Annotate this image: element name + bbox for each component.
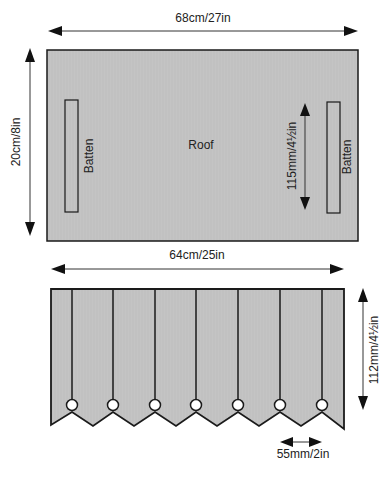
roof-width-label: 68cm/27in	[175, 11, 230, 25]
arrow-left-icon	[280, 437, 293, 447]
valance-width-dimension: 64cm/25in	[51, 248, 344, 274]
arrow-right-icon	[330, 264, 344, 274]
eyelet-circle-icon	[317, 400, 328, 411]
arrow-up-icon	[25, 48, 35, 62]
arrow-up-icon	[358, 288, 368, 302]
batten-left-label: Batten	[82, 139, 96, 174]
arrow-right-icon	[309, 437, 322, 447]
arrow-down-icon	[358, 396, 368, 410]
point-spacing-dimension: 55mm/2in	[277, 437, 330, 461]
valance-height-dimension: 112mm/4½in	[358, 288, 381, 410]
roof-panel: Roof Batten Batten 115mm/4½in	[47, 50, 358, 241]
batten-right-label: Batten	[340, 140, 354, 175]
point-spacing-label: 55mm/2in	[277, 447, 330, 461]
batten-spacing-label: 115mm/4½in	[285, 122, 299, 190]
roof-height-label: 20cm/8in	[9, 118, 23, 167]
valance-panel	[51, 289, 344, 429]
valance-height-label: 112mm/4½in	[367, 316, 381, 384]
arrow-left-icon	[48, 26, 62, 36]
eyelet-circle-icon	[150, 400, 161, 411]
arrow-left-icon	[51, 264, 65, 274]
eyelet-circle-icon	[233, 400, 244, 411]
eyelet-circle-icon	[108, 400, 119, 411]
arrow-down-icon	[25, 222, 35, 236]
arrow-right-icon	[344, 26, 358, 36]
eyelet-circle-icon	[275, 400, 286, 411]
roof-width-dimension: 68cm/27in	[48, 11, 358, 36]
eyelet-circle-icon	[67, 400, 78, 411]
roof-label: Roof	[188, 138, 214, 152]
valance-width-label: 64cm/25in	[169, 248, 224, 262]
awning-pattern-diagram: 68cm/27in 20cm/8in Roof Batten Batten 11…	[0, 0, 387, 480]
eyelet-circle-icon	[191, 400, 202, 411]
roof-height-dimension: 20cm/8in	[9, 48, 35, 236]
